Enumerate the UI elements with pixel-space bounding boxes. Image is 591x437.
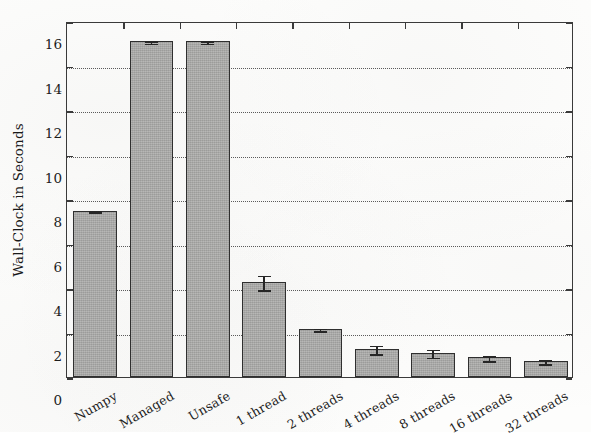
error-bar-cap [145, 44, 158, 45]
error-bar-cap [427, 358, 440, 359]
axis-tick-top [236, 23, 237, 29]
error-bar-cap [427, 350, 440, 351]
axis-tick [566, 156, 572, 157]
axis-tick [566, 67, 572, 68]
axis-tick [566, 289, 572, 290]
axis-tick [67, 334, 73, 335]
error-bar-cap [258, 276, 271, 277]
error-bar-cap [370, 354, 383, 355]
error-bar-cap [89, 213, 102, 214]
axis-tick-top [292, 23, 293, 29]
y-tick-label: 0 [20, 392, 62, 408]
error-bar-cap [539, 364, 552, 365]
bar [130, 41, 174, 377]
axis-tick [67, 111, 73, 112]
axis-tick-top [123, 23, 124, 29]
axis-tick [566, 334, 572, 335]
axis-tick [566, 378, 572, 379]
error-bar-cap [314, 331, 327, 332]
axis-tick [67, 22, 73, 23]
axis-tick-top [461, 23, 462, 29]
bar [73, 211, 117, 377]
error-bar [263, 276, 264, 291]
plot-area [66, 22, 573, 378]
error-bar-cap [539, 360, 552, 361]
axis-tick-top [180, 23, 181, 29]
error-bar-cap [201, 44, 214, 45]
error-bar-cap [370, 346, 383, 347]
error-bar-cap [483, 356, 496, 357]
axis-tick [566, 200, 572, 201]
error-bar-cap [145, 41, 158, 42]
axis-tick [67, 378, 73, 379]
axis-tick [67, 289, 73, 290]
error-bar-cap [201, 41, 214, 42]
axis-tick [566, 245, 572, 246]
error-bar-cap [314, 329, 327, 330]
axis-tick-top [349, 23, 350, 29]
axis-tick-top [518, 23, 519, 29]
axis-tick-top [405, 23, 406, 29]
error-bar-cap [258, 290, 271, 291]
axis-tick [67, 156, 73, 157]
axis-tick [67, 200, 73, 201]
axis-tick [67, 67, 73, 68]
bar [242, 282, 286, 377]
y-axis-title: Wall-Clock in Seconds [10, 22, 34, 378]
axis-tick [566, 22, 572, 23]
bar [299, 329, 343, 377]
error-bar-cap [483, 361, 496, 362]
axis-tick [566, 111, 572, 112]
axis-tick [67, 245, 73, 246]
bar [186, 41, 230, 377]
